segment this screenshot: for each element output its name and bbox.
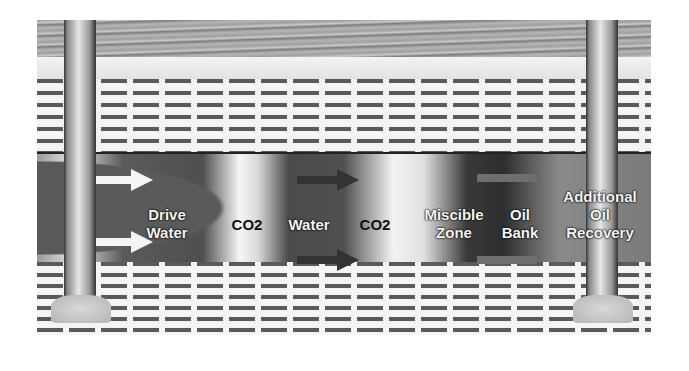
label-line: Miscible	[419, 206, 489, 224]
zone-label-drive-water: Drive Water	[135, 206, 199, 242]
production-well-icon	[586, 20, 618, 314]
overburden-layer	[37, 20, 651, 57]
basement-layer	[37, 262, 651, 335]
label-line: Recovery	[557, 224, 643, 242]
label-line: Oil	[495, 206, 545, 224]
label-line: Drive	[135, 206, 199, 224]
injection-well-base	[51, 295, 111, 323]
production-well-base	[573, 295, 633, 323]
label-line: Bank	[495, 224, 545, 242]
cross-section: Drive Water CO2 Water CO2 Miscible Zone …	[37, 20, 651, 335]
sand-layer	[37, 57, 651, 79]
zone-label-oil-bank: Oil Bank	[495, 206, 545, 242]
zone-label-miscible-zone: Miscible Zone	[419, 206, 489, 242]
zone-label-co2: CO2	[225, 216, 269, 234]
label-line: Zone	[419, 224, 489, 242]
zone-label-water: Water	[281, 216, 337, 234]
zone-label-co2-2: CO2	[353, 216, 397, 234]
label-line: Water	[135, 224, 199, 242]
caprock-layer	[37, 79, 651, 152]
label-line: Additional	[557, 188, 643, 206]
zone-label-additional-oil-recovery: Additional Oil Recovery	[557, 188, 643, 242]
label-line: Oil	[557, 206, 643, 224]
co2-eor-diagram: Drive Water CO2 Water CO2 Miscible Zone …	[0, 0, 689, 371]
injection-well-icon	[64, 20, 96, 314]
